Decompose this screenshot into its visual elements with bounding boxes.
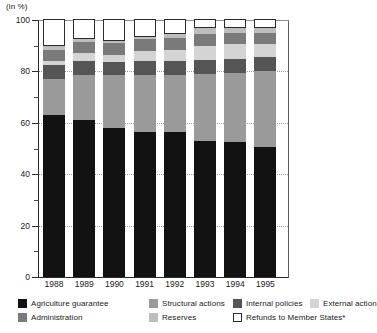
bar-segment [164, 49, 186, 61]
bar-segment [103, 127, 125, 277]
bar-segment [134, 75, 156, 132]
bar-segment [134, 39, 156, 51]
legend-label: Refunds to Member States* [246, 314, 346, 322]
bar-1995 [254, 20, 276, 277]
y-axis-tick-label: 100 [4, 16, 30, 25]
bar-segment [254, 32, 276, 44]
bar-segment [134, 131, 156, 277]
legend-label: Internal policies [246, 300, 302, 308]
bar-segment [194, 19, 216, 27]
bar-segment [103, 19, 125, 40]
bar-segment [224, 58, 246, 73]
bar-segment [43, 45, 65, 49]
legend-item[interactable]: Reserves [149, 311, 196, 324]
legend-swatch-icon [18, 313, 27, 322]
legend-swatch-icon [233, 313, 242, 322]
bar-segment [43, 49, 65, 61]
bar-segment [164, 131, 186, 277]
bar-1991 [134, 20, 156, 277]
bar-segment [224, 32, 246, 44]
bar-segment [194, 27, 216, 34]
bar-1990 [103, 20, 125, 277]
y-tick-major [32, 174, 39, 175]
chart-legend: Agriculture guaranteeStructural actionsI… [18, 297, 323, 325]
legend-item[interactable]: Administration [18, 311, 82, 324]
y-tick-major [32, 20, 39, 21]
bar-segment [254, 71, 276, 147]
bar-1993 [194, 20, 216, 277]
bar-segment [134, 50, 156, 61]
bar-segment [73, 75, 95, 121]
bar-segment [194, 34, 216, 46]
legend-label: Agriculture guarantee [31, 300, 109, 308]
legend-label: Reserves [162, 314, 196, 322]
bar-segment [73, 120, 95, 277]
legend-row: Agriculture guaranteeStructural actionsI… [18, 297, 323, 311]
bar-segment [224, 141, 246, 277]
bar-segment [224, 72, 246, 142]
bar-segment [254, 27, 276, 33]
y-tick-major [32, 71, 39, 72]
y-axis-tick-label: 60 [4, 119, 30, 128]
bar-segment [194, 140, 216, 277]
bar-segment [73, 53, 95, 61]
bar-segment [194, 59, 216, 74]
legend-label: External action [323, 300, 377, 308]
legend-swatch-icon [149, 313, 158, 322]
legend-swatch-icon [310, 299, 319, 308]
bar-segment [43, 64, 65, 79]
legend-item[interactable]: External action [310, 297, 377, 310]
bar-segment [164, 61, 186, 76]
legend-item[interactable]: Structural actions [149, 297, 225, 310]
bars-layer [39, 20, 288, 277]
axis-unit-label: (in %) [6, 2, 28, 11]
bar-segment [224, 27, 246, 33]
bar-1989 [73, 20, 95, 277]
bar-segment [103, 43, 125, 55]
bar-segment [254, 57, 276, 72]
legend-label: Structural actions [162, 300, 225, 308]
y-tick-major [32, 226, 39, 227]
y-axis-tick-label: 0 [4, 273, 30, 282]
y-tick-major [32, 123, 39, 124]
bar-segment [164, 75, 186, 132]
bar-segment [254, 19, 276, 27]
legend-item[interactable]: Internal policies [233, 297, 302, 310]
bar-segment [164, 19, 186, 34]
y-axis-tick-label: 80 [4, 67, 30, 76]
legend-label: Administration [31, 314, 82, 322]
bar-1994 [224, 20, 246, 277]
legend-swatch-icon [149, 299, 158, 308]
bar-1988 [43, 20, 65, 277]
x-axis-label-1995: 1995 [245, 280, 285, 289]
bar-segment [224, 19, 246, 27]
bar-segment [73, 61, 95, 76]
bar-segment [224, 44, 246, 59]
bar-segment [134, 61, 156, 76]
y-tick-major [32, 277, 39, 278]
bar-segment [43, 115, 65, 278]
bar-segment [194, 73, 216, 140]
bar-segment [73, 41, 95, 53]
bar-segment [73, 19, 95, 39]
legend-swatch-icon [18, 299, 27, 308]
bar-segment [254, 147, 276, 277]
legend-item[interactable]: Agriculture guarantee [18, 297, 109, 310]
bar-segment [164, 37, 186, 49]
bar-segment [103, 62, 125, 75]
bar-segment [103, 54, 125, 62]
bar-segment [194, 45, 216, 60]
bar-1992 [164, 20, 186, 277]
bar-segment [103, 75, 125, 128]
bar-segment [134, 19, 156, 36]
bar-segment [43, 79, 65, 116]
bar-segment [254, 44, 276, 57]
bar-segment [164, 34, 186, 38]
legend-swatch-icon [233, 299, 242, 308]
y-axis-tick-label: 20 [4, 222, 30, 231]
plot-frame-right-edge [288, 20, 289, 278]
bar-segment [43, 19, 65, 45]
legend-row: AdministrationReservesRefunds to Member … [18, 311, 323, 325]
legend-item[interactable]: Refunds to Member States* [233, 311, 346, 324]
